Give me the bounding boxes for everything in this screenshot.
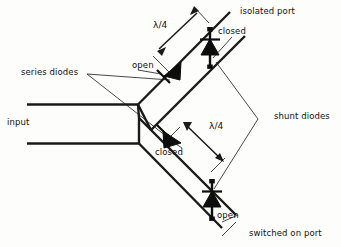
label-switched-on-port: switched on port — [249, 229, 322, 238]
label-closed-upper: closed — [218, 27, 246, 36]
leader-lines — [87, 37, 258, 236]
shunt-diode-upper-triangle — [201, 39, 219, 55]
upper-arm-inner-line — [151, 36, 245, 130]
quarter-wave-upper-arrow-line — [159, 13, 197, 49]
figure-canvas: input series diodes open λ/4 closed isol… — [0, 0, 341, 247]
label-series-diodes: series diodes — [21, 68, 78, 77]
schematic-drawing — [0, 0, 341, 247]
shunt-diode-upper-terminal-top — [207, 27, 213, 31]
label-quarter-wave-lower: λ/4 — [209, 122, 223, 131]
label-quarter-wave-upper: λ/4 — [153, 21, 167, 30]
label-shunt-diodes: shunt diodes — [274, 112, 330, 121]
quarter-wave-upper-extension-start — [153, 56, 170, 73]
label-open-lower: open — [217, 211, 239, 220]
shunt-diode-upper-terminal-bottom — [207, 65, 213, 69]
label-input: input — [7, 118, 29, 127]
label-isolated-port: isolated port — [240, 7, 295, 16]
lower-arm-inner-line — [139, 118, 236, 215]
label-open-upper: open — [132, 61, 154, 70]
leader-shunt-diodes-upper — [216, 62, 258, 119]
shunt-diode-lower-terminal-bottom — [209, 217, 215, 221]
quarter-wave-upper-extension-end — [196, 9, 209, 23]
quarter-wave-upper-arrowhead-start — [157, 47, 166, 56]
label-closed-lower: closed — [155, 148, 183, 157]
center-junction-connector — [138, 105, 139, 119]
leader-series-diodes-upper — [87, 74, 170, 80]
shunt-diode-lower-terminal-top — [209, 179, 215, 183]
input-transmission-line — [27, 105, 139, 144]
leader-switched-on-port — [222, 222, 236, 236]
shunt-diode-lower-triangle — [203, 191, 221, 207]
quarter-wave-lower-extension-end — [211, 158, 225, 172]
